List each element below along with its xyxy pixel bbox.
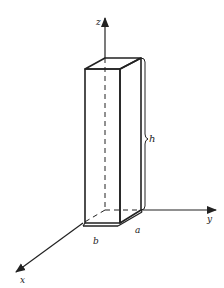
x-axis-label: x — [20, 275, 25, 285]
height-label: h — [149, 133, 155, 144]
rectangular-prism — [83, 58, 142, 226]
prism-top-face — [85, 58, 141, 69]
depth-a-label: a — [135, 225, 140, 235]
prism-front-face — [85, 69, 120, 223]
z-axis-label: z — [95, 17, 101, 27]
prism-diagram: z y x h b a — [0, 0, 224, 288]
width-b-label: b — [93, 236, 99, 246]
hidden-x-edge — [83, 210, 105, 223]
prism-right-face — [120, 58, 141, 223]
height-bracket — [141, 58, 148, 210]
x-axis — [16, 223, 83, 272]
y-axis-label: y — [206, 214, 213, 224]
